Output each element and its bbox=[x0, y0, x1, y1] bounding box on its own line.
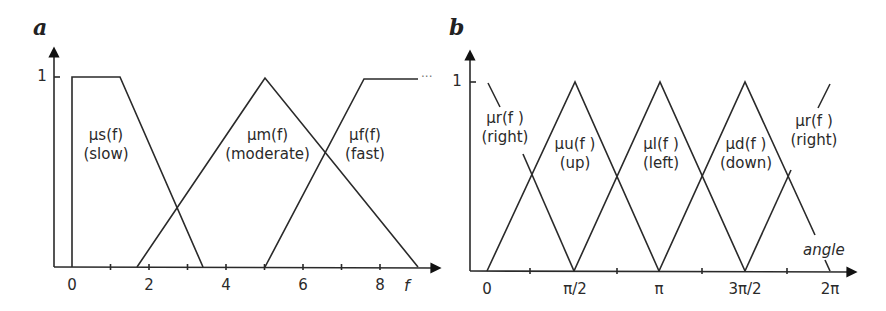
panel-a-x-axis-label: f bbox=[404, 276, 410, 295]
panel-b-x-axis-label: angle bbox=[803, 241, 845, 259]
panel-b-x-tick: 2π bbox=[821, 280, 840, 298]
panel-a-x-tick: 2 bbox=[144, 276, 154, 294]
moderate-membership-curve bbox=[137, 78, 418, 267]
panel-b-x-tick: π bbox=[654, 280, 663, 298]
panel-a-x-tick: 8 bbox=[375, 276, 385, 294]
panel-b-letter: b bbox=[449, 14, 464, 40]
panel-b-x-tick: π/2 bbox=[563, 280, 587, 298]
panel-b-x-axis bbox=[470, 271, 852, 272]
up-curve-label: μu(f ) (up) bbox=[549, 135, 601, 173]
panel-b-y-tick-1: 1 bbox=[452, 72, 462, 90]
left-curve-label: μl(f ) (left) bbox=[635, 135, 687, 173]
right-membership-curve-right-segment-b bbox=[818, 84, 830, 108]
right-membership-curve-left-segment-a bbox=[488, 83, 500, 107]
down-curve-label: μd(f ) (down) bbox=[718, 135, 774, 173]
right-curve-label-left: μr(f ) (right) bbox=[479, 109, 531, 147]
slow-curve-label: μs(f) (slow) bbox=[80, 126, 132, 164]
panel-a-letter: a bbox=[33, 14, 47, 40]
left-membership-curve bbox=[574, 82, 745, 271]
panel-a-x-tick: 0 bbox=[67, 276, 77, 294]
down-membership-curve bbox=[659, 82, 815, 271]
right-membership-curve-right-segment-a bbox=[745, 170, 791, 271]
fast-continuation-ellipsis: ··· bbox=[421, 68, 432, 87]
panel-a-x-tick: 4 bbox=[221, 276, 231, 294]
panel-b-x-tick: 0 bbox=[482, 280, 492, 298]
slow-membership-curve bbox=[72, 77, 203, 267]
panel-a-y-tick-1: 1 bbox=[37, 67, 47, 85]
panel-b-x-tick: 3π/2 bbox=[728, 280, 761, 298]
panel-a-x-axis bbox=[54, 267, 436, 268]
panel-a-x-tick: 6 bbox=[298, 276, 308, 294]
moderate-curve-label: μm(f) (moderate) bbox=[220, 126, 315, 164]
fast-curve-label: μf(f) (fast) bbox=[340, 126, 390, 164]
right-curve-label-right: μr(f ) (right) bbox=[788, 112, 840, 150]
